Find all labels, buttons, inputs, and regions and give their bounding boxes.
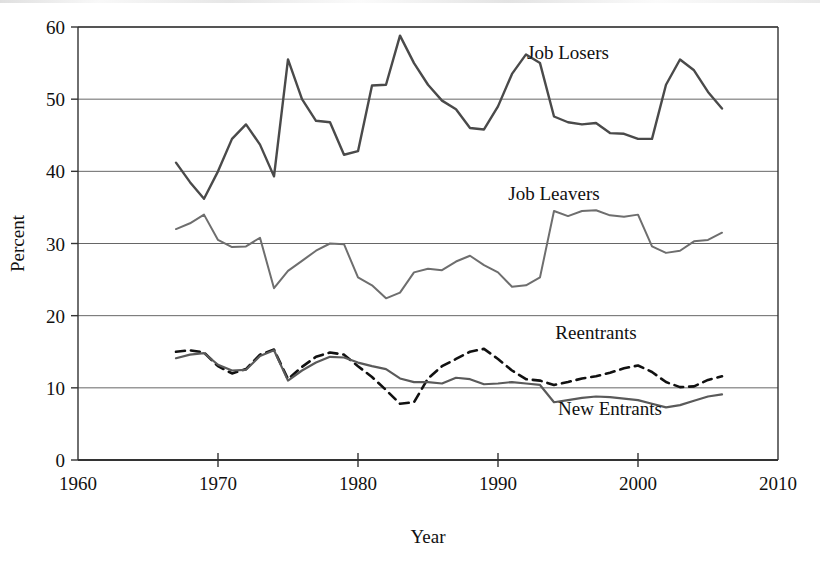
x-axis-title: Year bbox=[410, 526, 446, 547]
y-tick-label-20: 20 bbox=[46, 306, 65, 327]
series-label-reentrants: Reentrants bbox=[555, 322, 636, 343]
y-tick-label-60: 60 bbox=[46, 17, 65, 38]
series-line-job-leavers bbox=[176, 210, 722, 298]
series-line-job-losers bbox=[176, 36, 722, 199]
x-tick-label-2010: 2010 bbox=[759, 473, 797, 494]
series-lines-group bbox=[176, 36, 722, 408]
x-tick-label-1990: 1990 bbox=[479, 473, 517, 494]
series-label-new-entrants: New Entrants bbox=[558, 398, 662, 419]
series-label-job-losers: Job Losers bbox=[527, 42, 609, 63]
unemployment-reason-line-chart: 0102030405060196019701980199020002010 Jo… bbox=[0, 0, 820, 568]
series-label-job-leavers: Job Leavers bbox=[508, 183, 599, 204]
chart-canvas: 0102030405060196019701980199020002010 Jo… bbox=[0, 0, 820, 568]
y-tick-label-30: 30 bbox=[46, 234, 65, 255]
x-tick-label-1960: 1960 bbox=[59, 473, 97, 494]
x-tick-label-1980: 1980 bbox=[339, 473, 377, 494]
y-axis-title: Percent bbox=[7, 214, 28, 272]
x-tick-label-2000: 2000 bbox=[619, 473, 657, 494]
y-tick-label-40: 40 bbox=[46, 161, 65, 182]
y-tick-label-0: 0 bbox=[56, 450, 66, 471]
axis-tick-labels-group: 0102030405060196019701980199020002010 bbox=[46, 17, 797, 494]
gridlines-group bbox=[78, 27, 778, 388]
y-tick-label-50: 50 bbox=[46, 89, 65, 110]
x-tick-label-1970: 1970 bbox=[199, 473, 237, 494]
y-tick-label-10: 10 bbox=[46, 378, 65, 399]
